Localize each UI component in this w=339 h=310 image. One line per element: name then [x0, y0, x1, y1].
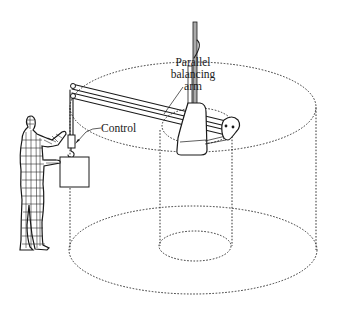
label-parallel-balancing-arm: Parallel balancing arm	[166, 56, 220, 92]
operator-figure	[20, 116, 66, 250]
label-line-2: balancing	[166, 68, 220, 80]
load-box	[60, 157, 89, 187]
manipulator-diagram	[0, 0, 339, 310]
label-line-3: arm	[166, 80, 220, 92]
control-handle-assembly	[68, 90, 101, 158]
label-control: Control	[101, 122, 136, 134]
counterweight	[222, 117, 240, 140]
hook-icon	[68, 148, 74, 158]
label-line-1: Parallel	[166, 56, 220, 68]
